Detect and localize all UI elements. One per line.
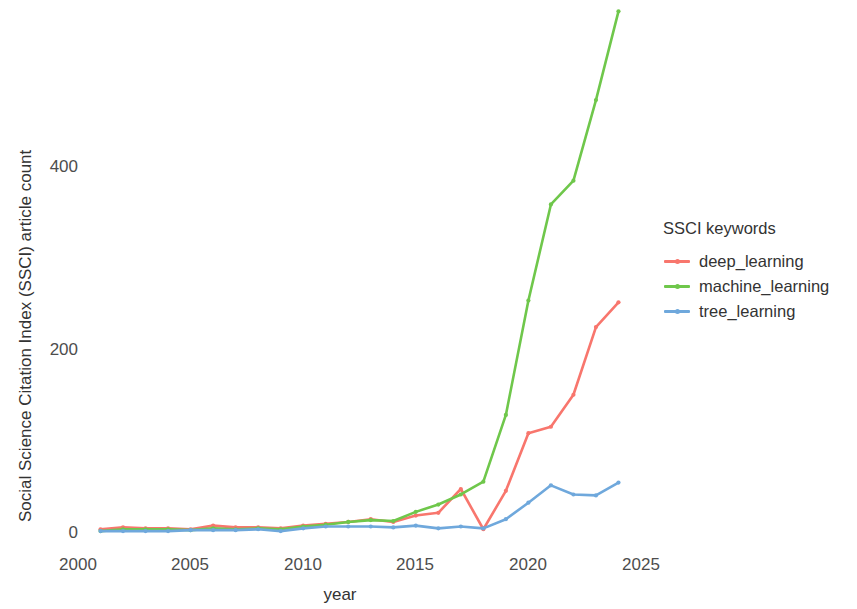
legend-swatch-tree-learning <box>663 301 691 323</box>
data-point <box>571 393 575 397</box>
data-point <box>436 502 440 506</box>
data-point <box>369 518 373 522</box>
data-point <box>121 529 125 533</box>
data-point <box>594 325 598 329</box>
data-point <box>571 179 575 183</box>
data-point <box>571 492 575 496</box>
data-point <box>234 528 238 532</box>
data-point <box>594 493 598 497</box>
data-point <box>481 480 485 484</box>
legend: SSCI keywords deep_learning machine_lear… <box>663 219 853 324</box>
legend-label-tree-learning: tree_learning <box>699 302 795 321</box>
data-point <box>616 480 620 484</box>
data-point <box>279 529 283 533</box>
data-point <box>504 517 508 521</box>
data-point <box>549 202 553 206</box>
data-point <box>369 524 373 528</box>
series-line-tree-learning <box>101 483 619 532</box>
data-point <box>143 529 147 533</box>
data-point <box>459 492 463 496</box>
data-point <box>346 524 350 528</box>
legend-item-machine-learning[interactable]: machine_learning <box>663 274 853 299</box>
legend-label-deep-learning: deep_learning <box>699 252 804 271</box>
data-point <box>256 527 260 531</box>
data-point <box>414 513 418 517</box>
data-point <box>549 425 553 429</box>
data-point <box>436 511 440 515</box>
data-point <box>526 431 530 435</box>
data-point <box>549 483 553 487</box>
legend-item-tree-learning[interactable]: tree_learning <box>663 299 853 324</box>
data-point <box>414 524 418 528</box>
data-point <box>189 528 193 532</box>
data-point <box>391 519 395 523</box>
data-point <box>504 489 508 493</box>
legend-swatch-machine-learning <box>663 276 691 298</box>
data-point <box>504 413 508 417</box>
data-point <box>459 524 463 528</box>
legend-title: SSCI keywords <box>663 219 853 238</box>
data-point <box>324 524 328 528</box>
data-point <box>526 501 530 505</box>
legend-label-machine-learning: machine_learning <box>699 277 829 296</box>
data-point <box>436 526 440 530</box>
data-point <box>414 510 418 514</box>
series-line-deep-learning <box>101 302 619 529</box>
line-chart: Social Science Citation Index (SSCI) art… <box>0 0 857 609</box>
data-point <box>616 300 620 304</box>
data-point <box>166 529 170 533</box>
legend-item-deep-learning[interactable]: deep_learning <box>663 249 853 274</box>
data-point <box>526 298 530 302</box>
data-point <box>616 9 620 13</box>
data-point <box>594 98 598 102</box>
data-point <box>211 528 215 532</box>
data-point <box>391 525 395 529</box>
series-line-machine-learning <box>101 11 619 531</box>
data-point <box>346 520 350 524</box>
data-point <box>301 526 305 530</box>
legend-swatch-deep-learning <box>663 251 691 273</box>
data-point <box>459 487 463 491</box>
data-point <box>98 529 102 533</box>
data-point <box>481 526 485 530</box>
